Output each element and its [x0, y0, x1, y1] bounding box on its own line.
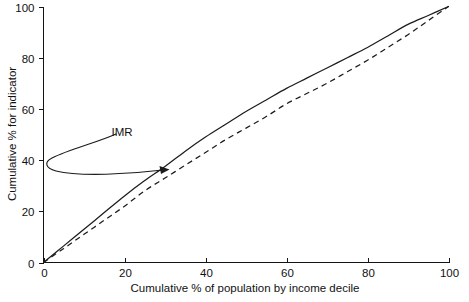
- y-axis-title: Cumulative % for indicator: [6, 67, 18, 201]
- x-tick-label: 0: [41, 267, 47, 279]
- chart-figure: 020406080100 020406080100 IMR Cumulative…: [0, 0, 469, 302]
- chart-canvas: 020406080100 020406080100 IMR Cumulative…: [0, 0, 469, 302]
- y-tick-label: 0: [28, 258, 34, 270]
- x-tick-label: 80: [362, 267, 375, 279]
- y-tick-label: 100: [15, 2, 34, 14]
- y-tick-label: 60: [22, 104, 35, 116]
- y-tick-label: 20: [22, 206, 35, 218]
- x-axis-title: Cumulative % of population by income dec…: [131, 282, 360, 294]
- x-tick-label: 20: [119, 267, 132, 279]
- y-tick-label: 40: [22, 155, 35, 167]
- x-tick-label: 60: [281, 267, 294, 279]
- x-tick-label: 100: [440, 267, 459, 279]
- x-tick-label: 40: [200, 267, 213, 279]
- y-tick-label: 80: [22, 53, 35, 65]
- annotation-label-imr: IMR: [111, 126, 132, 138]
